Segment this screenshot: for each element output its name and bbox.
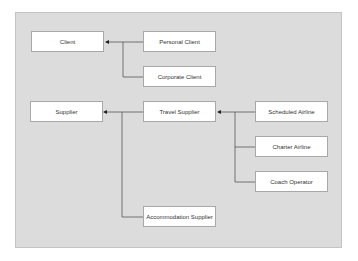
node-charter-airline: Charter Airline [255,136,328,157]
node-travel-supplier: Travel Supplier [143,101,216,122]
node-coach-operator: Coach Operator [255,171,328,192]
node-accommodation-supplier: Accommodation Supplier [143,206,216,227]
node-client: Client [31,31,104,52]
node-supplier: Supplier [30,101,103,122]
arrow-head-icon [105,40,109,44]
node-corporate-client: Corporate Client [143,66,216,87]
arrow-head-icon [103,110,107,114]
node-scheduled-airline: Scheduled Airline [255,101,328,122]
arrow-head-icon [217,110,221,114]
node-personal-client: Personal Client [143,31,216,52]
